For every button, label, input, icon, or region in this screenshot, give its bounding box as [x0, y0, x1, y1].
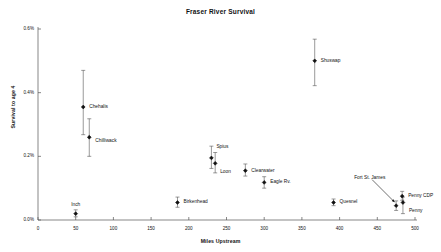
x-tick-label: 50 — [64, 226, 88, 231]
point-label: Penny — [409, 208, 423, 213]
x-tick-label: 100 — [101, 226, 125, 231]
x-tick-label: 500 — [403, 226, 427, 231]
x-tick-label: 400 — [328, 226, 352, 231]
point-label: Eagle Rv. — [270, 179, 290, 184]
point-label: Shuswap — [321, 58, 341, 63]
x-tick-label: 350 — [290, 226, 314, 231]
y-tick-label: 0.4% — [10, 90, 34, 95]
y-tick-label: 0.6% — [10, 26, 34, 31]
point-label: Clearwater — [251, 168, 274, 173]
tick-marks — [38, 29, 415, 220]
plot-area — [0, 0, 441, 252]
data-markers — [74, 59, 405, 216]
point-label: Chehalis — [89, 104, 108, 109]
chart-figure: Fraser River Survival Survival to age 4 … — [0, 0, 441, 252]
error-bars — [74, 39, 405, 217]
leader-lines — [372, 180, 395, 203]
point-label: Fort St. James — [354, 175, 385, 180]
y-tick-label: 0.2% — [10, 153, 34, 158]
axis-lines — [38, 27, 417, 220]
x-tick-label: 150 — [139, 226, 163, 231]
point-label: Chilliwack — [95, 138, 116, 143]
x-tick-label: 0 — [26, 226, 50, 231]
point-label: Penny CDP — [408, 193, 433, 198]
x-tick-label: 200 — [177, 226, 201, 231]
x-tick-label: 250 — [215, 226, 239, 231]
x-tick-label: 450 — [365, 226, 389, 231]
point-label: Loon — [220, 169, 231, 174]
point-label: Birkenhead — [183, 199, 207, 204]
point-label: Quesnel — [340, 199, 358, 204]
point-label: Inch — [56, 202, 96, 207]
x-tick-label: 300 — [252, 226, 276, 231]
point-label: Spius — [216, 144, 228, 149]
y-tick-label: 0.0% — [10, 217, 34, 222]
